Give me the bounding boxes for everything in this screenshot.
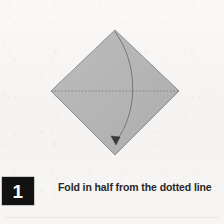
- fold-diagram-figure: [0, 0, 224, 172]
- step-number-badge: 1: [2, 177, 34, 205]
- step-number-label: 1: [12, 182, 23, 201]
- origami-instruction-card: 1 Fold in half from the dotted line: [0, 0, 224, 224]
- instruction-text: Fold in half from the dotted line: [58, 182, 220, 194]
- caption-row: 1 Fold in half from the dotted line: [0, 172, 224, 210]
- footer-divider: [4, 217, 220, 218]
